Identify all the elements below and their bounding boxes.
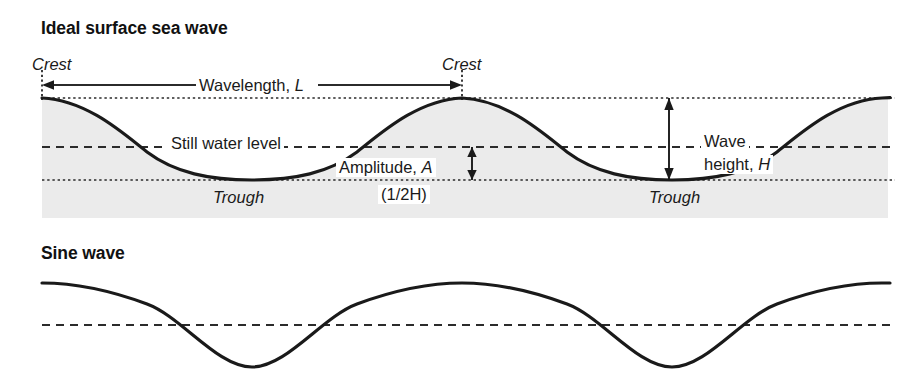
- arrowhead-left: [42, 80, 54, 90]
- trough-right-label: Trough: [649, 188, 700, 207]
- crest-left-label: Crest: [32, 55, 71, 74]
- wave-height-label-line1: Wave: [701, 132, 749, 151]
- wave-height-dimension-arrow: [664, 98, 673, 180]
- arrowhead-up: [664, 98, 673, 110]
- amplitude-label: Amplitude, A: [336, 158, 436, 177]
- crest-right-label: Crest: [442, 55, 481, 74]
- wave-height-label-line2: height, H: [701, 155, 773, 174]
- amplitude-note-label: (1/2H): [378, 185, 430, 204]
- wave-diagram: Ideal surface sea wave Sine wave: [0, 0, 917, 390]
- wavelength-label: Wavelength, L: [196, 76, 307, 95]
- arrowhead-right: [450, 80, 462, 90]
- still-water-level-label: Still water level: [168, 134, 284, 153]
- arrowhead-down: [664, 168, 673, 180]
- trough-left-label: Trough: [213, 188, 264, 207]
